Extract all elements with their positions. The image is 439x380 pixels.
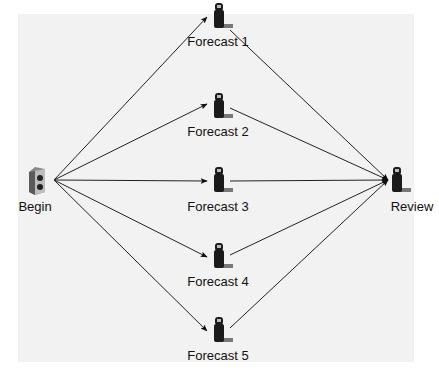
node-label: Forecast 4 <box>187 274 248 289</box>
person-icon <box>211 2 235 30</box>
node-label: Begin <box>18 199 51 214</box>
node-label: Forecast 1 <box>187 34 248 49</box>
edge-f4-review <box>230 180 388 255</box>
edge-begin-f5 <box>54 180 207 331</box>
node-label: Review <box>391 199 434 214</box>
person-icon <box>211 316 235 344</box>
edge-f3-review <box>230 180 388 181</box>
server-icon <box>26 166 48 196</box>
node-label: Forecast 5 <box>187 348 248 363</box>
edge-f2-review <box>230 108 388 180</box>
person-icon <box>389 166 413 194</box>
node-label: Forecast 3 <box>187 199 248 214</box>
edge-f1-review <box>230 30 388 180</box>
edge-begin-f3 <box>54 180 207 181</box>
node-label: Forecast 2 <box>187 124 248 139</box>
person-icon <box>211 166 235 194</box>
edge-f5-review <box>230 180 388 328</box>
edge-begin-f2 <box>54 104 207 180</box>
person-icon <box>211 92 235 120</box>
person-icon <box>211 242 235 270</box>
edge-begin-f4 <box>54 180 207 257</box>
edge-begin-f1 <box>54 17 207 180</box>
